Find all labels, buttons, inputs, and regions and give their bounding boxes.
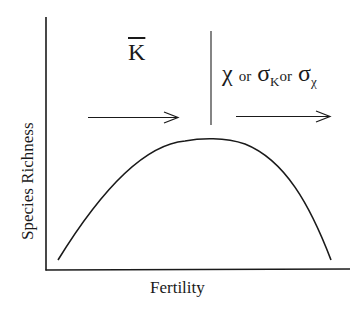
richness-curve — [58, 139, 331, 260]
k-symbol: K — [128, 39, 145, 65]
sigma-k-symbol: σ — [257, 60, 270, 86]
sigma-chi-subscript: χ — [311, 74, 317, 89]
chi-sigma-label: χ or σKor σχ — [222, 60, 317, 90]
diagram-canvas — [0, 0, 361, 314]
k-bar-label: K — [128, 39, 145, 66]
x-axis — [46, 269, 351, 270]
or-text-2: or — [279, 68, 292, 84]
sigma-chi-symbol: σ — [298, 60, 311, 86]
right-arrow — [236, 111, 330, 122]
y-axis-label: Species Richness — [18, 122, 38, 240]
chi-bar-symbol: χ — [222, 60, 233, 86]
x-axis-label: Fertility — [150, 278, 205, 298]
or-text-1: or — [239, 68, 252, 84]
left-arrow — [88, 112, 178, 123]
